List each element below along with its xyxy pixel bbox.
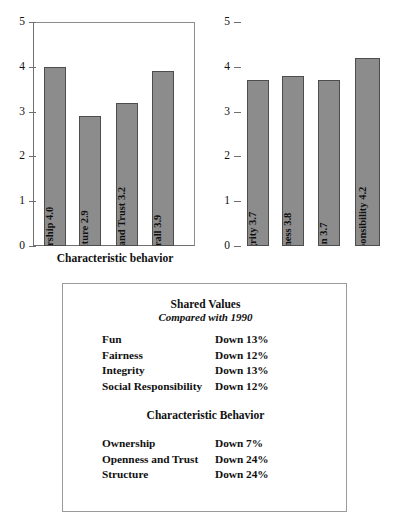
summary-row-label: Fairness (63, 348, 215, 364)
y-axis-tick-label: 0 (3, 240, 25, 252)
bar-label: Integrity 3.7 (248, 212, 259, 246)
bar-label: Fun 3.7 (319, 223, 330, 246)
y-axis-tick-label: 0 (208, 240, 230, 252)
summary-row: OwnershipDown 7% (63, 436, 348, 452)
characteristic-behavior-row-list: OwnershipDown 7%Openness and TrustDown 2… (63, 436, 348, 483)
y-axis-tick (29, 22, 36, 23)
y-axis-tick-label: 4 (208, 61, 230, 73)
summary-row-label: Integrity (63, 363, 215, 379)
y-axis-tick (29, 246, 36, 247)
bar-label: Openness and Trust 3.2 (117, 187, 128, 246)
bar: Structure 2.9 (79, 116, 101, 246)
chart-shared-values: 012345 Integrity 3.7Fairness 3.8Fun 3.7S… (202, 0, 404, 270)
y-axis-tick (234, 201, 241, 202)
bar: Overall 3.9 (152, 71, 174, 246)
summary-box: Shared Values Compared with 1990 FunDown… (62, 283, 347, 512)
summary-row-label: Social Responsibility (63, 379, 215, 395)
y-axis-tick-label: 3 (208, 106, 230, 118)
bar-label: Fairness 3.8 (283, 213, 294, 246)
bar: Fairness 3.8 (282, 76, 304, 246)
chart-characteristic-behavior: 012345 Ownership 4.0Structure 2.9Opennes… (0, 0, 202, 270)
bar-label: Ownership 4.0 (45, 207, 56, 246)
bar: Fun 3.7 (318, 80, 340, 246)
y-axis-tick-label: 3 (3, 106, 25, 118)
bar: Ownership 4.0 (44, 67, 66, 246)
bar-label: Overall 3.9 (153, 215, 164, 246)
summary-row-value: Down 13% (215, 332, 348, 348)
y-axis-tick (234, 67, 241, 68)
x-axis-title-left: Characteristic behavior (20, 252, 210, 265)
shared-values-subheading: Compared with 1990 (63, 311, 348, 324)
y-axis-tick (29, 156, 36, 157)
summary-row: Social ResponsibilityDown 12% (63, 379, 348, 395)
y-axis-tick-label: 5 (3, 16, 25, 28)
summary-row-value: Down 12% (215, 379, 348, 395)
summary-row-label: Fun (63, 332, 215, 348)
summary-row: IntegrityDown 13% (63, 363, 348, 379)
summary-row-value: Down 12% (215, 348, 348, 364)
summary-row: FunDown 13% (63, 332, 348, 348)
y-axis-tick-label: 1 (208, 195, 230, 207)
y-axis-tick (29, 112, 36, 113)
y-axis-tick (234, 22, 241, 23)
bar: Social responsibility 4.2 (355, 58, 380, 246)
section-shared-values: Shared Values Compared with 1990 FunDown… (63, 297, 348, 394)
bar: Integrity 3.7 (247, 80, 269, 246)
y-axis-tick-label: 2 (208, 150, 230, 162)
y-axis-tick (29, 67, 36, 68)
section-characteristic-behavior: Characteristic Behavior OwnershipDown 7%… (63, 408, 348, 483)
y-axis-tick-label: 1 (3, 195, 25, 207)
summary-row: FairnessDown 12% (63, 348, 348, 364)
shared-values-heading: Shared Values (63, 297, 348, 311)
summary-row-value: Down 24% (215, 452, 348, 468)
bar-label: Social responsibility 4.2 (357, 187, 368, 246)
bar: Openness and Trust 3.2 (116, 103, 138, 246)
summary-row: StructureDown 24% (63, 467, 348, 483)
y-axis-tick (234, 246, 241, 247)
y-axis-tick (234, 112, 241, 113)
y-axis-tick (234, 156, 241, 157)
summary-row-value: Down 7% (215, 436, 348, 452)
y-axis-tick-label: 5 (208, 16, 230, 28)
shared-values-row-list: FunDown 13%FairnessDown 12%IntegrityDown… (63, 332, 348, 394)
summary-row-value: Down 24% (215, 467, 348, 483)
y-axis-tick-label: 2 (3, 150, 25, 162)
summary-row-label: Openness and Trust (63, 452, 215, 468)
summary-row-label: Ownership (63, 436, 215, 452)
summary-row-label: Structure (63, 467, 215, 483)
bar-label: Structure 2.9 (80, 211, 91, 246)
summary-row: Openness and TrustDown 24% (63, 452, 348, 468)
characteristic-behavior-heading: Characteristic Behavior (63, 408, 348, 422)
y-axis-tick (29, 201, 36, 202)
summary-row-value: Down 13% (215, 363, 348, 379)
y-axis-tick-label: 4 (3, 61, 25, 73)
